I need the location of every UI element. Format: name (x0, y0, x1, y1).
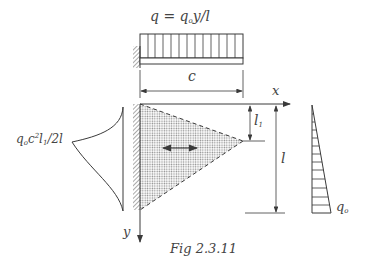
y-axis-label: y (123, 224, 130, 239)
dimension-l (245, 106, 285, 213)
label-q0: q (180, 8, 189, 24)
load-hatch-lines (148, 34, 235, 58)
label-m-q: q (16, 132, 24, 146)
figure-caption: Fig 2.3.11 (170, 241, 237, 256)
uniform-load-block (140, 34, 243, 58)
left-moment-label: qoc2l1/2l (16, 132, 63, 147)
x-axis-label: x (272, 83, 279, 98)
label-q0-right-sub: o (344, 207, 348, 215)
wall-support-top (133, 46, 140, 68)
label-m-c: c (28, 132, 35, 146)
moment-curve (72, 107, 123, 211)
beam-bar (140, 58, 243, 64)
label-q: q (150, 8, 159, 24)
top-beam (133, 34, 243, 68)
label-equals: = (159, 8, 180, 24)
dotted-triangle-region (140, 104, 243, 210)
dim-l1-label: l1 (254, 112, 263, 129)
label-y-over-l: y/l (193, 8, 210, 24)
dim-c-label: c (188, 68, 196, 84)
label-l1-sub: 1 (258, 121, 262, 129)
linear-load-diagram (312, 105, 331, 213)
wall-support-left (133, 104, 140, 210)
load-top-label: q = qoy/l (150, 8, 210, 25)
dim-l-label: l (281, 150, 285, 166)
right-load-label: qo (336, 199, 349, 215)
label-m-rest: /2l (47, 132, 63, 146)
